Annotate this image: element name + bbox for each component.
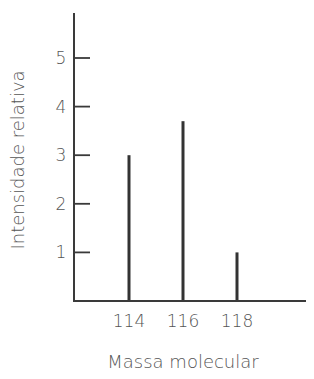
x-tick-label: 118 [221, 311, 253, 331]
y-tick-label: 5 [56, 48, 67, 68]
spectrum-bars [129, 121, 237, 301]
y-tick-label: 1 [56, 242, 67, 262]
y-axis-ticks: 12345 [56, 48, 90, 262]
y-tick-label: 3 [56, 145, 67, 165]
x-axis-title: Massa molecular [107, 351, 259, 372]
x-tick-label: 114 [113, 311, 145, 331]
x-tick-label: 116 [167, 311, 199, 331]
mass-spectrum-chart: 12345 114116118 Massa molecular Intensid… [0, 0, 314, 379]
y-tick-label: 4 [56, 97, 67, 117]
x-axis-ticks: 114116118 [113, 311, 253, 331]
y-tick-label: 2 [56, 194, 67, 214]
y-axis-title: Intensidade relativa [7, 70, 28, 249]
